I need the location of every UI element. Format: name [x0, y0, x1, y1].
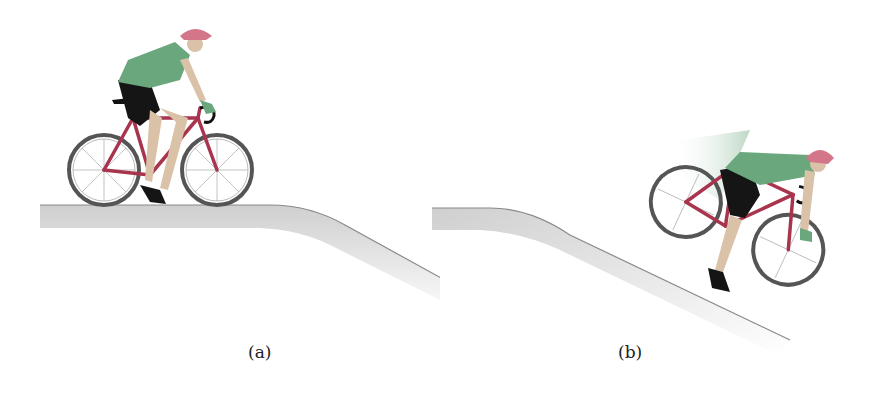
- bicycle: [69, 98, 252, 205]
- panel-b: (b): [420, 0, 877, 396]
- panel-a: (a): [0, 0, 440, 396]
- hill-ground: [40, 205, 440, 320]
- cyclist-descending-illustration: [420, 0, 877, 396]
- caption-a: (a): [248, 342, 271, 362]
- cyclist-level-illustration: [0, 0, 440, 396]
- caption-b: (b): [618, 342, 642, 362]
